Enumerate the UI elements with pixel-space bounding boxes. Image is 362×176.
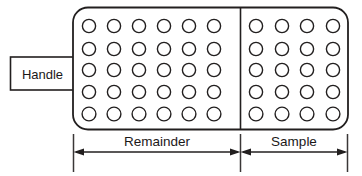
well: [207, 63, 220, 76]
well: [82, 19, 95, 32]
dimension-remainder: [74, 149, 241, 156]
well: [249, 107, 263, 121]
well: [249, 63, 262, 76]
well: [207, 42, 220, 55]
well: [300, 42, 313, 55]
well: [326, 63, 339, 76]
well: [132, 85, 145, 98]
well: [275, 42, 288, 55]
diagram-root: Handle: [0, 0, 362, 176]
dimension-label-remainder: Remainder: [124, 134, 191, 149]
well: [326, 85, 339, 98]
well: [300, 85, 313, 98]
well: [132, 42, 145, 55]
well: [132, 107, 146, 121]
well: [275, 19, 288, 32]
well: [326, 19, 339, 32]
well: [182, 63, 195, 76]
well: [300, 107, 314, 121]
well: [107, 63, 120, 76]
well: [107, 107, 121, 121]
well: [82, 107, 96, 121]
well: [157, 19, 170, 32]
well: [207, 85, 220, 98]
well: [157, 85, 170, 98]
arrow-head-right: [230, 149, 241, 156]
well: [275, 85, 288, 98]
well: [82, 42, 95, 55]
well: [249, 42, 262, 55]
dimension-sample: [241, 149, 348, 156]
tray-diagram: Handle: [0, 0, 362, 176]
well: [182, 19, 195, 32]
arrow-head-left: [74, 149, 85, 156]
dimension-group: Remainder Sample: [74, 134, 348, 172]
arrow-head-right: [337, 149, 348, 156]
well: [107, 85, 120, 98]
dimension-label-sample: Sample: [271, 134, 317, 149]
well: [107, 42, 120, 55]
well: [157, 63, 170, 76]
well: [275, 63, 288, 76]
well: [82, 63, 95, 76]
well: [182, 42, 195, 55]
well: [275, 107, 289, 121]
well: [107, 19, 120, 32]
handle-label: Handle: [22, 67, 63, 82]
well: [326, 42, 339, 55]
well: [326, 107, 340, 121]
well: [182, 107, 196, 121]
well: [207, 107, 221, 121]
well: [249, 19, 262, 32]
well: [157, 42, 170, 55]
well: [82, 85, 95, 98]
well: [182, 85, 195, 98]
well: [132, 19, 145, 32]
well: [300, 63, 313, 76]
handle-group: Handle: [11, 57, 75, 90]
tray-group: [73, 8, 348, 130]
well: [132, 63, 145, 76]
well: [157, 107, 171, 121]
well: [249, 85, 262, 98]
well: [207, 19, 220, 32]
well: [300, 19, 313, 32]
arrow-head-left: [241, 149, 252, 156]
